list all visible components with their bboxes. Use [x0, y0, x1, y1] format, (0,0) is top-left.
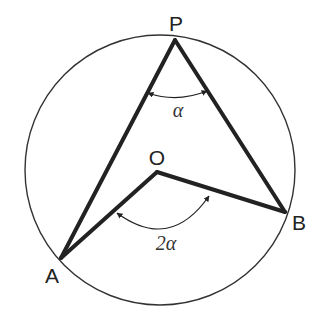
label-B: B	[292, 211, 306, 234]
inscribed-angle-diagram: P O A B α 2α	[0, 0, 320, 311]
inscribed-angle-arc	[148, 91, 207, 98]
segment-OB	[157, 172, 285, 212]
label-2alpha: 2α	[156, 232, 177, 254]
segment-PB	[175, 40, 285, 212]
label-P: P	[169, 12, 183, 35]
diagram-canvas: P O A B α 2α	[0, 0, 320, 311]
label-A: A	[45, 264, 59, 287]
label-alpha: α	[173, 99, 184, 121]
central-angle-arc	[117, 196, 209, 229]
circle	[25, 35, 295, 305]
label-O: O	[149, 146, 165, 169]
segment-OA	[61, 172, 157, 258]
